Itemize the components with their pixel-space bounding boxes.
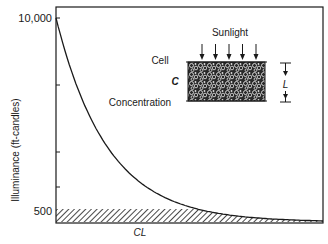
sunlight-arrowhead [213, 54, 218, 60]
sunlight-arrows [200, 44, 259, 60]
sunlight-arrowhead [240, 54, 245, 60]
sunlight-arrowhead [200, 54, 205, 60]
y-tick-label-top: 10,000 [18, 12, 52, 24]
concentration-label: Concentration [109, 97, 171, 108]
cl-label: CL [134, 227, 147, 238]
l-label: L [283, 79, 289, 90]
plot-frame [56, 7, 323, 223]
cell-suspension [188, 62, 265, 101]
depth-bracket: L [280, 63, 291, 102]
sunlight-label: Sunlight [212, 27, 248, 38]
cell-inset: Sunlight Cell C Concentration L [109, 27, 291, 108]
cell-label: Cell [151, 55, 168, 66]
y-tick-label-bottom: 500 [34, 205, 52, 217]
y-axis-label: Illuminance (ft-candles) [10, 98, 21, 201]
decay-curve [56, 18, 323, 221]
sunlight-arrowhead [254, 54, 259, 60]
sunlight-arrowhead [227, 54, 232, 60]
c-label: C [171, 76, 179, 87]
chart: Illuminance (ft-candles) 10,000 500 CL S… [0, 0, 328, 244]
